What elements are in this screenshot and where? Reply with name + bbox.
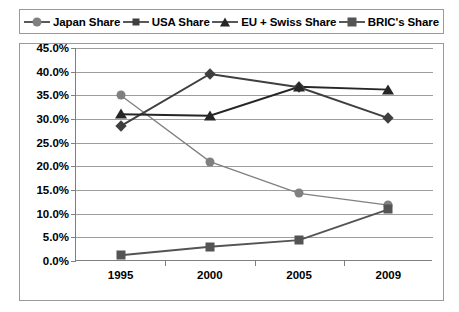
legend-label: Japan Share	[53, 16, 120, 28]
y-tick-label: 45.0%	[36, 42, 69, 54]
plot-area: 0.0%5.0%10.0%15.0%20.0%25.0%30.0%35.0%40…	[75, 48, 432, 261]
series-line	[121, 209, 389, 255]
series-lines	[76, 48, 433, 261]
legend-label: EU + Swiss Share	[241, 16, 336, 28]
legend-item-eu-swiss-share[interactable]: EU + Swiss Share	[212, 16, 336, 28]
data-point-marker	[382, 84, 394, 94]
y-tick-mark	[71, 261, 76, 262]
legend-item-japan-share[interactable]: Japan Share	[24, 16, 120, 28]
x-tick-label: 2000	[197, 269, 223, 281]
y-tick-label: 35.0%	[36, 89, 69, 101]
data-point-marker	[116, 91, 125, 100]
data-point-marker	[116, 251, 125, 260]
legend-item-brics-share[interactable]: BRIC's Share	[339, 16, 439, 28]
y-tick-label: 15.0%	[36, 184, 69, 196]
y-tick-label: 0.0%	[43, 255, 69, 267]
y-tick-label: 40.0%	[36, 66, 69, 78]
x-tick-label: 2009	[376, 269, 402, 281]
data-point-marker	[205, 242, 214, 251]
series-line	[121, 87, 389, 116]
x-tick-label: 2005	[286, 269, 312, 281]
square-marker-icon	[339, 16, 365, 28]
series-line	[121, 95, 389, 205]
data-point-marker	[204, 110, 216, 120]
data-point-marker	[115, 109, 127, 119]
data-point-marker	[295, 236, 304, 245]
line-chart: Japan Share USA Share EU + Swiss Share B…	[0, 0, 459, 312]
x-tick-label: 1995	[108, 269, 134, 281]
y-tick-label: 20.0%	[36, 160, 69, 172]
data-point-marker	[384, 205, 393, 214]
data-point-marker	[295, 189, 304, 198]
legend-item-usa-share[interactable]: USA Share	[123, 16, 210, 28]
legend-label: BRIC's Share	[368, 16, 439, 28]
legend-label: USA Share	[152, 16, 210, 28]
y-tick-label: 10.0%	[36, 208, 69, 220]
diamond-marker-icon	[123, 16, 149, 28]
data-point-marker	[205, 157, 214, 166]
y-tick-label: 5.0%	[43, 231, 69, 243]
triangle-marker-icon	[212, 16, 238, 28]
y-tick-label: 25.0%	[36, 137, 69, 149]
chart-legend: Japan Share USA Share EU + Swiss Share B…	[19, 9, 444, 34]
series-line	[121, 74, 389, 126]
data-point-marker	[293, 81, 305, 91]
y-tick-label: 30.0%	[36, 113, 69, 125]
circle-marker-icon	[24, 16, 50, 28]
